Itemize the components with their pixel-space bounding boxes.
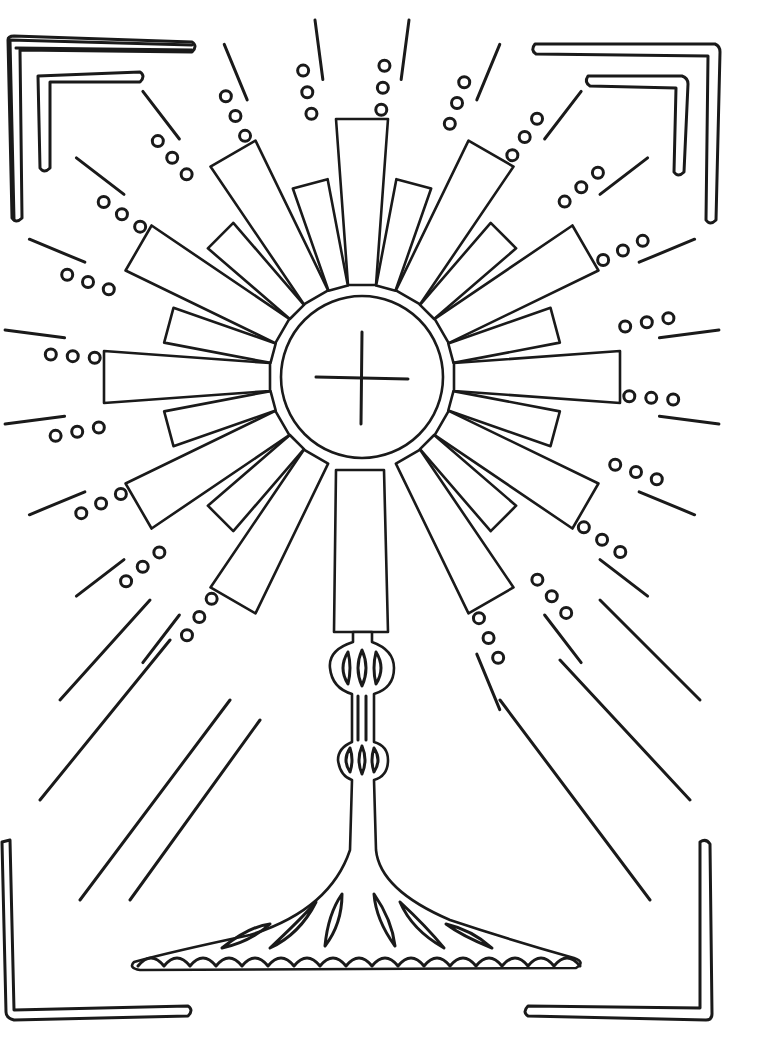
corner-frame-bottom-right	[525, 840, 712, 1020]
monstrance-illustration	[0, 0, 761, 1058]
corner-frame-top-left	[8, 36, 195, 221]
host-circle	[281, 296, 443, 458]
corner-frame-bottom-left	[2, 840, 191, 1020]
